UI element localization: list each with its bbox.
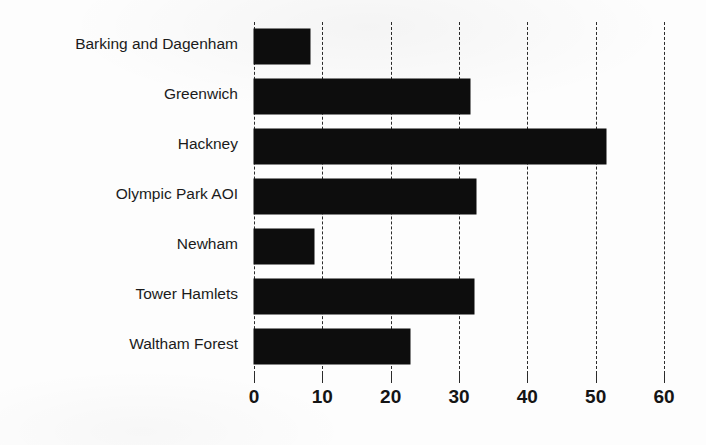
tick-label-40: 40	[497, 386, 557, 408]
gridline-60	[664, 22, 665, 374]
tick-label-30: 30	[429, 386, 489, 408]
bar-row	[254, 322, 664, 372]
category-label-newham: Newham	[0, 222, 246, 266]
category-label-barking-and-dagenham: Barking and Dagenham	[0, 22, 246, 66]
category-axis: Barking and Dagenham Greenwich Hackney O…	[0, 22, 246, 374]
tick-label-0: 0	[224, 386, 284, 408]
category-label-waltham-forest: Waltham Forest	[0, 322, 246, 366]
tick-mark-30	[459, 374, 460, 383]
bar-row	[254, 272, 664, 322]
tick-label-60: 60	[634, 386, 694, 408]
bar-hackney[interactable]	[254, 129, 606, 164]
category-label-tower-hamlets: Tower Hamlets	[0, 272, 246, 316]
tick-label-10: 10	[292, 386, 352, 408]
category-label-hackney: Hackney	[0, 122, 246, 166]
tick-mark-0	[254, 374, 255, 383]
bar-barking-and-dagenham[interactable]	[254, 29, 310, 64]
category-label-olympic-park-aoi: Olympic Park AOI	[0, 172, 246, 216]
tick-mark-20	[391, 374, 392, 383]
bar-row	[254, 222, 664, 272]
bar-row	[254, 72, 664, 122]
bars-layer	[254, 22, 664, 374]
bar-olympic-park-aoi[interactable]	[254, 179, 476, 214]
plot-area	[254, 22, 664, 374]
category-label-greenwich: Greenwich	[0, 72, 246, 116]
bar-greenwich[interactable]	[254, 79, 470, 114]
bar-row	[254, 122, 664, 172]
tick-mark-40	[527, 374, 528, 383]
chart-title	[0, 0, 706, 3]
tick-label-20: 20	[361, 386, 421, 408]
tick-mark-10	[322, 374, 323, 383]
tick-label-50: 50	[566, 386, 626, 408]
bar-newham[interactable]	[254, 229, 314, 264]
tick-mark-50	[596, 374, 597, 383]
value-axis: 0102030405060	[254, 374, 664, 434]
tick-mark-60	[664, 374, 665, 383]
bar-chart-figure: Barking and Dagenham Greenwich Hackney O…	[0, 0, 706, 445]
bar-row	[254, 172, 664, 222]
bar-row	[254, 22, 664, 72]
bar-waltham-forest[interactable]	[254, 329, 410, 364]
bar-tower-hamlets[interactable]	[254, 279, 474, 314]
